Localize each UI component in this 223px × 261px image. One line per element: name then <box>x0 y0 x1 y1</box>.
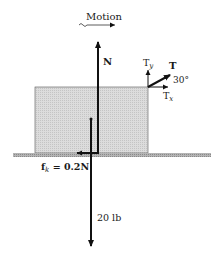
ground-surface <box>13 153 211 157</box>
motion-label: Motion <box>86 11 122 22</box>
tension-y-label: Ty <box>143 57 154 70</box>
motion-indicator: Motion <box>79 11 122 27</box>
friction-label: fk = 0.2N <box>41 161 89 174</box>
normal-force-label: N <box>103 56 112 67</box>
tension-x-label: Tx <box>163 90 173 103</box>
weight-label: 20 lb <box>97 212 121 223</box>
tension-label: T <box>169 60 177 71</box>
tension-arrow <box>148 75 170 87</box>
free-body-diagram: Motion N 20 lb fk = 0.2N Ty Tx T 30° <box>0 0 223 261</box>
wavy-tail-icon <box>79 24 87 27</box>
tension-angle-label: 30° <box>173 75 189 85</box>
